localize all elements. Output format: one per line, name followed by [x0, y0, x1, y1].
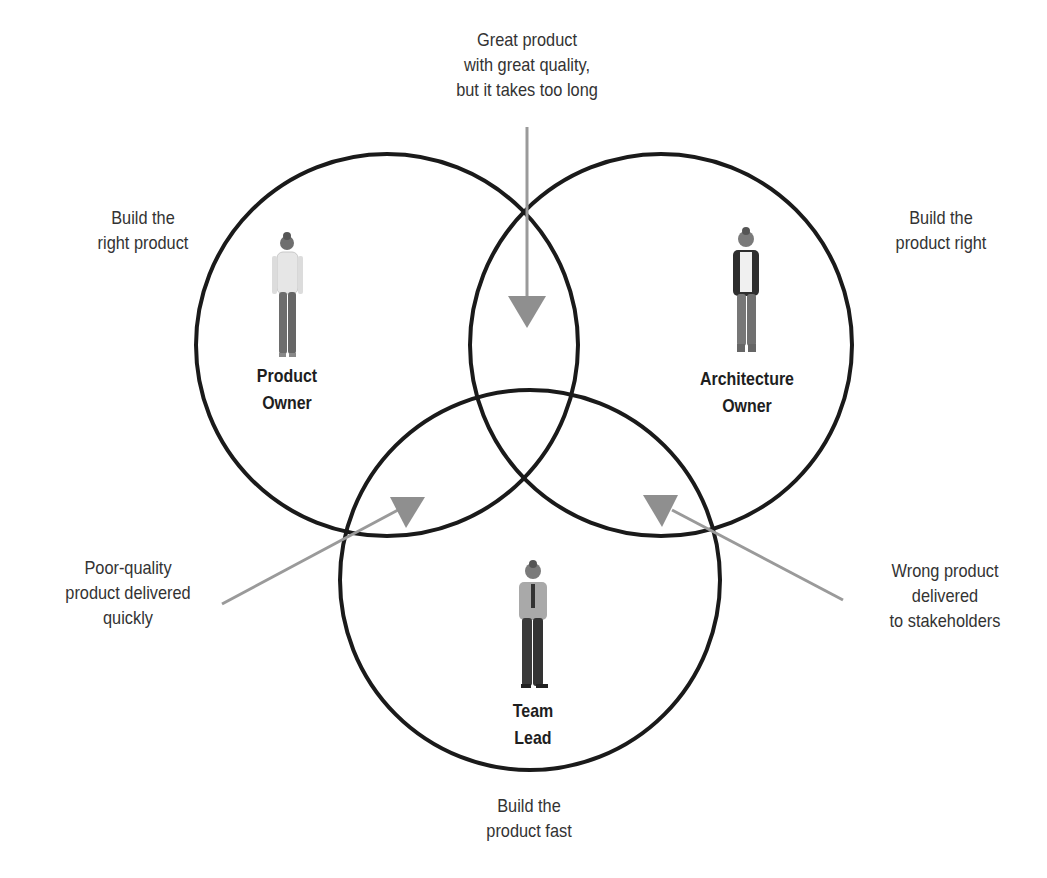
goal-line: Build the: [456, 793, 602, 818]
goal-architecture-owner: Build the product right: [868, 205, 1014, 255]
annotation-po-tl: Poor-quality product delivered quickly: [46, 555, 209, 630]
annotation-ao-tl: Wrong product delivered to stakeholders: [863, 558, 1026, 633]
annotation-line: with great quality,: [441, 52, 613, 77]
role-line: Owner: [684, 392, 810, 419]
annotation-line: Great product: [441, 27, 613, 52]
arrow-left-icon: [222, 497, 425, 604]
goal-line: Build the: [868, 205, 1014, 230]
person-product-owner-icon: [272, 232, 303, 357]
arrow-right-icon: [643, 495, 843, 600]
role-line: Architecture: [684, 365, 810, 392]
circle-product-owner: [196, 154, 578, 536]
annotation-line: but it takes too long: [441, 77, 613, 102]
person-architecture-owner-icon: [733, 227, 759, 352]
role-team-lead: Team Lead: [478, 697, 587, 751]
role-line: Product: [228, 362, 346, 389]
annotation-line: to stakeholders: [863, 608, 1026, 633]
role-line: Team: [478, 697, 587, 724]
annotation-line: Wrong product: [863, 558, 1026, 583]
goal-line: Build the: [70, 205, 216, 230]
role-line: Lead: [478, 724, 587, 751]
annotation-po-ao: Great product with great quality, but it…: [441, 27, 613, 102]
annotation-line: product delivered: [46, 580, 209, 605]
role-architecture-owner: Architecture Owner: [684, 365, 810, 419]
goal-line: product fast: [456, 818, 602, 843]
arrow-top-icon: [508, 127, 546, 328]
role-line: Owner: [228, 389, 346, 416]
goal-product-owner: Build the right product: [70, 205, 216, 255]
annotation-line: quickly: [46, 605, 209, 630]
goal-line: right product: [70, 230, 216, 255]
role-product-owner: Product Owner: [228, 362, 346, 416]
annotation-line: delivered: [863, 583, 1026, 608]
goal-team-lead: Build the product fast: [456, 793, 602, 843]
person-team-lead-icon: [519, 560, 548, 688]
annotation-line: Poor-quality: [46, 555, 209, 580]
goal-line: product right: [868, 230, 1014, 255]
